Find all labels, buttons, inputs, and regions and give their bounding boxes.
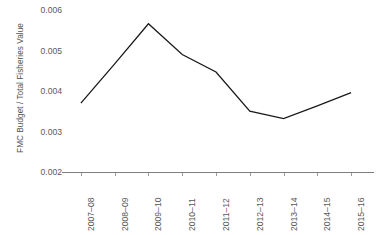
x-axis-tick-mark — [115, 173, 116, 176]
x-axis-line — [62, 172, 374, 173]
x-axis-tick-mark — [81, 173, 82, 176]
x-axis-tick-mark — [250, 173, 251, 176]
x-axis-tick-mark — [284, 173, 285, 176]
x-axis-tick-mark — [148, 173, 149, 176]
x-axis-tick-label: 2014–15 — [322, 177, 333, 231]
y-axis-tick-label: 0.002 — [18, 167, 62, 177]
x-axis-tick-label: 2010–11 — [187, 177, 198, 231]
line-chart: FMC Budget / Total Fisheries Value 0.006… — [0, 0, 386, 235]
x-axis-tick-label: 2013–14 — [289, 177, 300, 231]
x-axis-tick-label: 2015–16 — [356, 177, 367, 231]
y-axis-tick-labels: 0.0060.0050.0040.0030.002 — [16, 0, 62, 235]
data-series-line — [81, 24, 351, 119]
x-axis-tick-mark — [317, 173, 318, 176]
x-axis-tick-label: 2008–09 — [120, 177, 131, 231]
x-axis-tick-label: 2009–10 — [153, 177, 164, 231]
x-axis-tick-mark — [216, 173, 217, 176]
x-axis-tick-mark — [351, 173, 352, 176]
x-axis-tick-label: 2012–13 — [255, 177, 266, 231]
x-axis-tick-label: 2007–08 — [86, 177, 97, 231]
data-line-svg — [64, 10, 368, 172]
x-axis-tick-label: 2011–12 — [221, 177, 232, 231]
y-axis-tick-label: 0.006 — [18, 5, 62, 15]
y-axis-tick-label: 0.003 — [18, 127, 62, 137]
y-axis-tick-label: 0.004 — [18, 86, 62, 96]
plot-area — [64, 10, 368, 172]
x-axis-tick-mark — [182, 173, 183, 176]
y-axis-tick-label: 0.005 — [18, 46, 62, 56]
